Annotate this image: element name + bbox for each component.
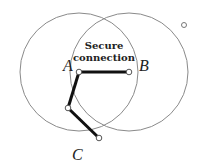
node-c (96, 135, 102, 141)
secure-label-line2: connection (73, 52, 136, 63)
node-outlier (182, 23, 187, 28)
link-a-mid (68, 72, 79, 108)
label-a: A (62, 57, 73, 74)
node-mid (65, 105, 71, 111)
secure-label-line1: Secure (85, 40, 124, 51)
network-diagram: Secure connection A B C (0, 0, 198, 166)
node-a (76, 69, 82, 75)
link-mid-c (68, 108, 99, 138)
node-b (126, 69, 132, 75)
label-b: B (139, 57, 149, 74)
label-c: C (72, 146, 83, 163)
